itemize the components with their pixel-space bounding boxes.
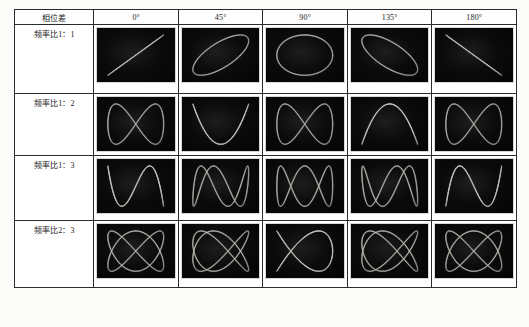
column-header-180deg: 180° xyxy=(432,10,517,25)
table-row: 频率比1：3 xyxy=(15,156,517,221)
cell-r3-c4 xyxy=(347,156,432,221)
lissajous-curve xyxy=(182,224,260,278)
cell-r2-c5 xyxy=(432,94,517,156)
cell-r2-c1 xyxy=(94,94,179,156)
oscilloscope-screen xyxy=(182,28,260,82)
lissajous-curve xyxy=(266,159,344,213)
cell-r3-c5 xyxy=(432,156,517,221)
lissajous-curve xyxy=(182,97,260,151)
lissajous-curve xyxy=(182,159,260,213)
cell-r4-c4 xyxy=(347,221,432,288)
cell-r1-c1 xyxy=(94,25,179,94)
cell-r2-c3 xyxy=(263,94,348,156)
lissajous-curve xyxy=(435,97,513,151)
lissajous-curve xyxy=(435,28,513,82)
cell-r2-c4 xyxy=(347,94,432,156)
corner-header-phase-difference: 相位差 xyxy=(15,10,94,25)
oscilloscope-screen xyxy=(266,28,344,82)
oscilloscope-screen xyxy=(435,28,513,82)
row-header-ratio-1-2: 频率比1：2 xyxy=(15,94,94,156)
oscilloscope-screen xyxy=(266,224,344,278)
column-header-90deg: 90° xyxy=(263,10,348,25)
lissajous-curve xyxy=(182,28,260,82)
cell-r1-c3 xyxy=(263,25,348,94)
table-row: 频率比2：3 xyxy=(15,221,517,288)
oscilloscope-screen xyxy=(351,159,429,213)
lissajous-table-container: 相位差 0° 45° 90° 135° 180° 频率比1：1 xyxy=(14,9,517,288)
lissajous-curve xyxy=(435,159,513,213)
cell-r3-c1 xyxy=(94,156,179,221)
cell-r4-c3 xyxy=(263,221,348,288)
oscilloscope-screen xyxy=(97,97,175,151)
column-header-45deg: 45° xyxy=(178,10,263,25)
oscilloscope-screen xyxy=(435,97,513,151)
cell-r1-c5 xyxy=(432,25,517,94)
lissajous-curve xyxy=(435,224,513,278)
oscilloscope-screen xyxy=(182,159,260,213)
oscilloscope-screen xyxy=(182,97,260,151)
column-header-135deg: 135° xyxy=(347,10,432,25)
lissajous-table: 相位差 0° 45° 90° 135° 180° 频率比1：1 xyxy=(14,9,517,288)
cell-r4-c5 xyxy=(432,221,517,288)
oscilloscope-screen xyxy=(435,224,513,278)
lissajous-curve xyxy=(97,28,175,82)
cell-r3-c2 xyxy=(178,156,263,221)
cell-r1-c2 xyxy=(178,25,263,94)
table-row: 频率比1：2 xyxy=(15,94,517,156)
table-row: 频率比1：1 xyxy=(15,25,517,94)
oscilloscope-screen xyxy=(266,97,344,151)
oscilloscope-screen xyxy=(351,28,429,82)
cell-r4-c2 xyxy=(178,221,263,288)
column-header-0deg: 0° xyxy=(94,10,179,25)
table-body: 频率比1：1 频率比1：2 频率比1：3 xyxy=(15,25,517,288)
oscilloscope-screen xyxy=(266,159,344,213)
lissajous-curve xyxy=(97,97,175,151)
oscilloscope-screen xyxy=(435,159,513,213)
oscilloscope-screen xyxy=(97,159,175,213)
oscilloscope-screen xyxy=(351,97,429,151)
header-row: 相位差 0° 45° 90° 135° 180° xyxy=(15,10,517,25)
oscilloscope-screen xyxy=(351,224,429,278)
table-header: 相位差 0° 45° 90° 135° 180° xyxy=(15,10,517,25)
row-header-ratio-1-1: 频率比1：1 xyxy=(15,25,94,94)
lissajous-curve xyxy=(351,224,429,278)
oscilloscope-screen xyxy=(97,224,175,278)
cell-r4-c1 xyxy=(94,221,179,288)
lissajous-curve xyxy=(266,97,344,151)
cell-r1-c4 xyxy=(347,25,432,94)
oscilloscope-screen xyxy=(97,28,175,82)
lissajous-curve xyxy=(97,159,175,213)
row-header-ratio-2-3: 频率比2：3 xyxy=(15,221,94,288)
lissajous-curve xyxy=(266,28,344,82)
lissajous-curve xyxy=(97,224,175,278)
lissajous-curve xyxy=(351,28,429,82)
lissajous-curve xyxy=(266,224,344,278)
cell-r3-c3 xyxy=(263,156,348,221)
lissajous-curve xyxy=(351,159,429,213)
cell-r2-c2 xyxy=(178,94,263,156)
page-root: 相位差 0° 45° 90° 135° 180° 频率比1：1 xyxy=(0,0,529,327)
lissajous-curve xyxy=(351,97,429,151)
oscilloscope-screen xyxy=(182,224,260,278)
row-header-ratio-1-3: 频率比1：3 xyxy=(15,156,94,221)
